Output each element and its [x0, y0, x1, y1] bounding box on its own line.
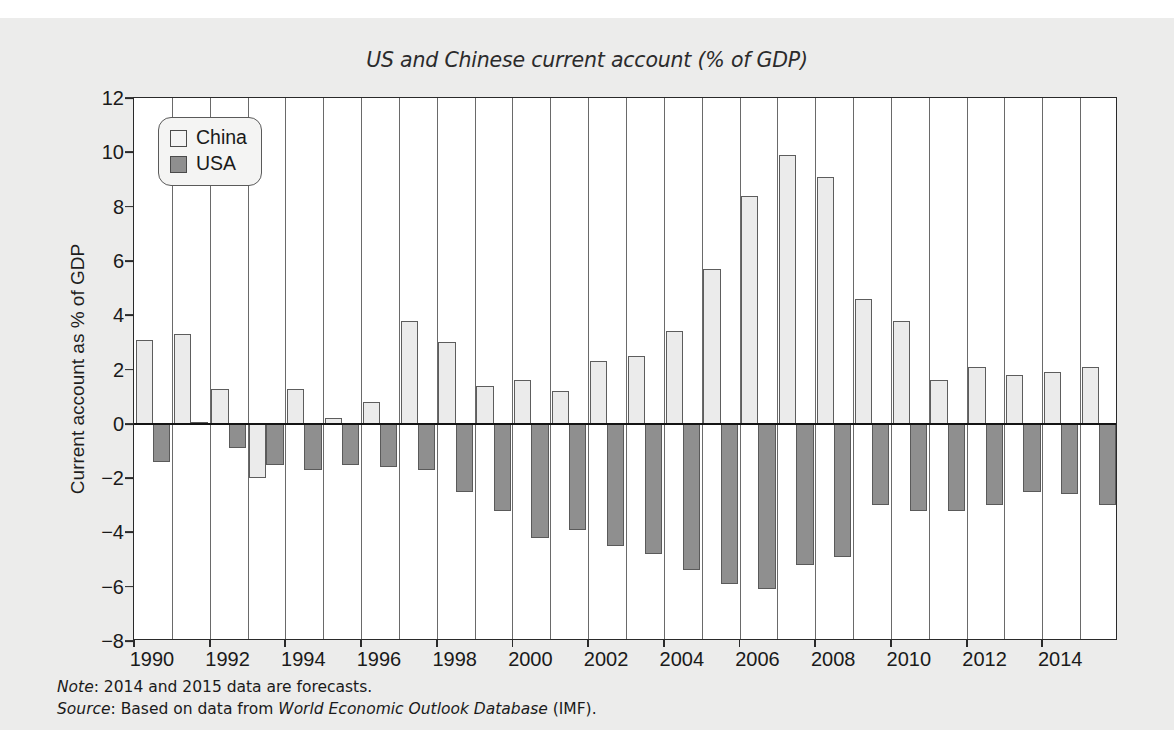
bar-usa-2003	[645, 424, 662, 554]
footnotes: Note: 2014 and 2015 data are forecasts. …	[57, 676, 1057, 721]
bar-china-2003	[628, 356, 645, 424]
bar-china-2009	[855, 299, 872, 424]
bar-usa-2015	[1099, 424, 1116, 505]
bar-usa-2007	[796, 424, 813, 565]
bar-china-2002	[590, 361, 607, 423]
bar-china-2004	[666, 331, 683, 423]
legend-item-china: China	[170, 125, 247, 151]
bar-usa-2010	[910, 424, 927, 511]
bar-usa-2014	[1061, 424, 1078, 495]
footnote-source-prefix: : Based on data from	[111, 700, 279, 718]
y-tick-label: 12	[76, 88, 124, 108]
y-tick-label: 10	[76, 142, 124, 162]
x-tick-label: 2012	[962, 648, 1007, 671]
bar-china-2005	[703, 269, 720, 424]
bar-china-1992	[211, 389, 228, 424]
legend-label-china: China	[196, 128, 247, 148]
x-tick-mark	[360, 639, 362, 647]
grid-line-vertical	[777, 98, 778, 639]
plot-area: China USA 121086420−2−4−6−8	[133, 97, 1117, 640]
x-tick-mark	[284, 639, 286, 647]
y-tick-label: −4	[76, 522, 124, 542]
x-tick-label: 2010	[887, 648, 932, 671]
bar-usa-1994	[304, 424, 321, 470]
y-tick-label: 0	[76, 414, 124, 434]
bar-usa-2002	[607, 424, 624, 546]
bar-china-2006	[741, 196, 758, 424]
y-tick-label: −8	[76, 631, 124, 651]
plot-inner	[134, 98, 1116, 639]
bar-usa-2004	[683, 424, 700, 571]
y-tick-mark	[125, 531, 134, 533]
bar-usa-2011	[948, 424, 965, 511]
bar-china-2011	[930, 380, 947, 423]
x-tick-mark	[133, 639, 135, 647]
bar-china-1990	[136, 340, 153, 424]
y-tick-mark	[125, 151, 134, 153]
footnote-note: Note: 2014 and 2015 data are forecasts.	[57, 676, 1057, 698]
x-tick-mark	[663, 639, 665, 647]
bar-usa-1992	[229, 424, 246, 448]
bar-china-2001	[552, 391, 569, 424]
y-tick-mark	[125, 423, 134, 425]
grid-line-vertical	[475, 98, 476, 639]
grid-line-vertical	[1004, 98, 1005, 639]
x-tick-mark	[587, 639, 589, 647]
x-tick-label: 2004	[660, 648, 705, 671]
footnote-note-text: : 2014 and 2015 data are forecasts.	[94, 678, 373, 696]
x-tick-mark	[436, 639, 438, 647]
y-tick-mark	[125, 314, 134, 316]
y-tick-label: −6	[76, 577, 124, 597]
bar-china-2013	[1006, 375, 1023, 424]
bar-china-1999	[476, 386, 493, 424]
bar-usa-2013	[1023, 424, 1040, 492]
y-tick-mark	[125, 477, 134, 479]
x-tick-label: 2000	[508, 648, 553, 671]
bar-china-2015	[1082, 367, 1099, 424]
bar-china-1997	[401, 321, 418, 424]
bar-usa-2005	[721, 424, 738, 584]
bar-china-1998	[438, 342, 455, 423]
grid-line-vertical	[1080, 98, 1081, 639]
x-tick-mark	[890, 639, 892, 647]
chart-legend: China USA	[158, 117, 262, 186]
y-tick-mark	[125, 260, 134, 262]
chart-title: US and Chinese current account (% of GDP…	[0, 48, 1174, 72]
bar-usa-1993	[266, 424, 283, 465]
grid-line-vertical	[512, 98, 513, 639]
legend-item-usa: USA	[170, 151, 247, 177]
x-tick-mark	[739, 639, 741, 647]
bar-usa-2000	[531, 424, 548, 538]
bar-usa-1995	[342, 424, 359, 465]
bar-china-1993	[249, 424, 266, 478]
y-tick-mark	[125, 369, 134, 371]
bar-china-2010	[893, 321, 910, 424]
x-tick-mark	[209, 639, 211, 647]
footnote-source-label: Source	[57, 700, 111, 718]
grid-line-vertical	[815, 98, 816, 639]
grid-line-vertical	[929, 98, 930, 639]
zero-baseline	[134, 423, 1116, 426]
grid-line-vertical	[323, 98, 324, 639]
grid-line-vertical	[588, 98, 589, 639]
bar-china-1994	[287, 389, 304, 424]
chart-page: US and Chinese current account (% of GDP…	[0, 0, 1174, 730]
legend-label-usa: USA	[196, 154, 236, 174]
grid-line-vertical	[285, 98, 286, 639]
footnote-source: Source: Based on data from World Economi…	[57, 698, 1057, 720]
x-tick-label: 1996	[357, 648, 402, 671]
x-tick-label: 2006	[735, 648, 780, 671]
bar-china-1991	[174, 334, 191, 424]
bar-china-2008	[817, 177, 834, 424]
bar-china-1996	[363, 402, 380, 424]
y-tick-label: 4	[76, 305, 124, 325]
x-tick-mark	[814, 639, 816, 647]
bar-usa-1996	[380, 424, 397, 467]
x-tick-label: 2002	[584, 648, 629, 671]
bar-usa-2008	[834, 424, 851, 557]
legend-swatch-usa-icon	[170, 156, 187, 173]
bar-usa-1990	[153, 424, 170, 462]
bar-usa-2001	[569, 424, 586, 530]
y-tick-label: −2	[76, 468, 124, 488]
bar-china-2007	[779, 155, 796, 424]
